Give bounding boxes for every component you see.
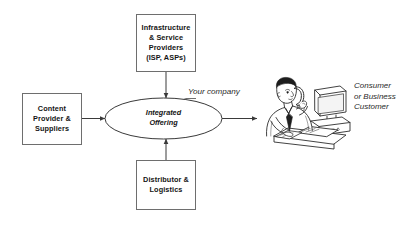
node-content-provider-suppliers[interactable]: Content Provider & Suppliers xyxy=(22,93,82,145)
person-at-desk-with-computer-icon xyxy=(258,74,354,154)
node-infrastructure-label: Infrastructure & Service Providers (ISP,… xyxy=(142,23,191,63)
annotation-your-company: Your company xyxy=(188,87,240,98)
node-infrastructure-service-providers[interactable]: Infrastructure & Service Providers (ISP,… xyxy=(136,14,196,72)
node-integrated-label: Integrated Offering xyxy=(146,108,181,127)
node-content-label: Content Provider & Suppliers xyxy=(33,104,71,134)
node-integrated-offering[interactable]: Integrated Offering xyxy=(105,98,222,139)
annotation-customer: Consumer or Business Customer xyxy=(354,81,396,113)
node-distributor-label: Distributor & Logistics xyxy=(143,175,189,195)
node-distributor-logistics[interactable]: Distributor & Logistics xyxy=(136,160,196,210)
diagram-canvas: Infrastructure & Service Providers (ISP,… xyxy=(0,0,413,229)
